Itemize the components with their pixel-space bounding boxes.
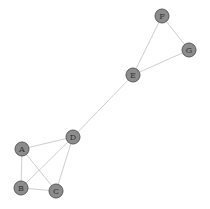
edge-E-G (133, 50, 189, 75)
graph-svg: ABCDEFG (0, 0, 210, 209)
node-A[interactable]: A (15, 142, 29, 156)
edge-D-E (73, 75, 133, 137)
node-label-A: A (18, 145, 25, 154)
node-B[interactable]: B (14, 181, 28, 195)
node-label-C: C (53, 187, 59, 196)
node-label-F: F (159, 12, 165, 21)
node-C[interactable]: C (49, 184, 63, 198)
node-F[interactable]: F (155, 9, 169, 23)
node-D[interactable]: D (66, 130, 80, 144)
edge-A-D (22, 137, 73, 149)
node-label-D: D (70, 133, 76, 142)
node-label-E: E (130, 71, 136, 80)
node-label-B: B (18, 184, 24, 193)
node-E[interactable]: E (126, 68, 140, 82)
edge-E-F (133, 16, 162, 75)
node-G[interactable]: G (182, 43, 196, 57)
edges-group (21, 16, 189, 191)
network-graph: ABCDEFG (0, 0, 210, 209)
node-label-G: G (186, 46, 192, 55)
